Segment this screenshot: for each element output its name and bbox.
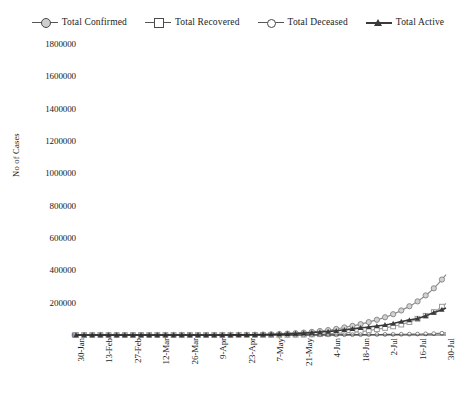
data-point-marker [366,319,371,324]
y-tick-label: 800000 [14,201,76,211]
x-tick-label: 26-Mar [190,338,200,364]
small-circle-marker-icon [258,17,284,27]
x-tick-label: 9-Apr [218,338,228,359]
data-point-marker [423,293,428,298]
series-line [76,304,446,335]
legend-label-total-deceased: Total Deceased [288,17,348,27]
data-point-marker [431,286,436,291]
series-total-confirmed [73,275,446,338]
x-tick-label: 23-Apr [247,338,257,363]
y-tick-label: 1000000 [14,168,76,178]
triangle-marker-icon [366,17,392,27]
data-point-marker [439,277,444,282]
x-tick-label: 2-Jul [389,338,399,356]
square-marker-icon [145,17,171,27]
data-point-marker [382,315,387,320]
x-tick-label: 18-Jun [361,338,371,362]
data-point-marker [374,317,379,322]
y-tick-label: 1600000 [14,71,76,81]
data-point-marker [391,312,396,317]
data-point-marker [440,331,444,335]
legend-item-total-active[interactable]: Total Active [366,17,444,27]
x-tick-label: 13-Feb [104,338,114,363]
series-line [76,308,446,335]
y-tick-label: 1400000 [14,104,76,114]
series-total-recovered [74,304,446,338]
chart-root: Total Confirmed Total Recovered Total De… [0,0,476,400]
y-tick-label: 400000 [14,265,76,275]
y-tick-label: 0 [14,330,76,340]
y-axis: 0200000400000600000800000100000012000001… [8,0,76,400]
x-tick-label: 16-Jul [418,338,428,360]
y-tick-label: 200000 [14,298,76,308]
x-tick-label: 4-Jun [332,338,342,358]
legend-item-total-recovered[interactable]: Total Recovered [145,17,240,27]
chart-canvas [76,44,446,335]
y-tick-label: 1800000 [14,39,76,49]
x-tick-label: 27-Feb [133,338,143,363]
x-tick-label: 21-May [304,338,314,366]
data-point-marker [415,299,420,304]
y-tick-label: 600000 [14,233,76,243]
data-point-marker [399,308,404,313]
x-tick-label: 12-Mar [161,338,171,364]
legend-label-total-recovered: Total Recovered [175,17,240,27]
x-tick-label: 30-Jul [446,338,456,360]
legend-label-total-active: Total Active [396,17,444,27]
plot-area [76,44,446,335]
y-tick-label: 1200000 [14,136,76,146]
x-axis: 30-Jan13-Feb27-Feb12-Mar26-Mar9-Apr23-Ap… [76,336,446,400]
legend-item-total-deceased[interactable]: Total Deceased [258,17,348,27]
x-tick-label: 30-Jan [76,338,86,361]
x-tick-label: 7-May [275,338,285,362]
data-point-marker [407,304,412,309]
series-total-active [73,307,446,337]
